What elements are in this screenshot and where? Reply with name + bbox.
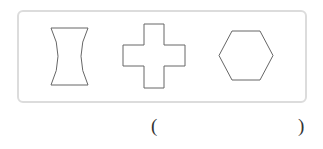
hexagon-shape-icon bbox=[219, 31, 273, 80]
shapes-figure bbox=[0, 0, 323, 149]
cross-shape-icon bbox=[123, 24, 185, 88]
answer-open-paren: ( bbox=[151, 116, 157, 135]
answer-close-paren: ) bbox=[298, 116, 304, 135]
concave-shape-icon bbox=[51, 28, 88, 85]
